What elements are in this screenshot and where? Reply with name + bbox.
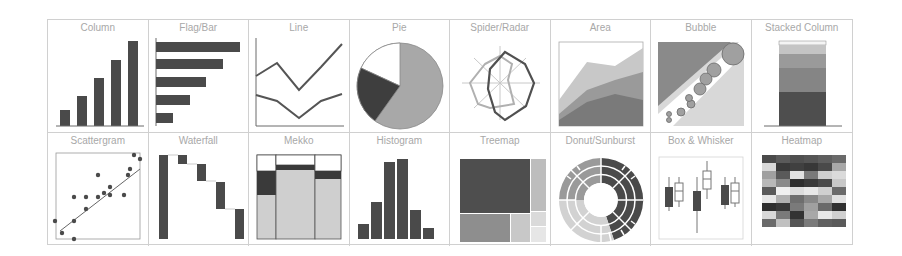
sunburst-chart-icon: [551, 147, 651, 243]
tile-box-whisker[interactable]: Box & Whisker: [651, 133, 752, 246]
tile-scattergram[interactable]: Scattergram: [48, 133, 149, 246]
tile-donut-sunburst[interactable]: Donut/Sunburst: [551, 133, 652, 246]
tile-stacked-column[interactable]: Stacked Column: [752, 20, 853, 133]
line-chart-icon: [249, 34, 349, 130]
tile-label: Line: [249, 22, 349, 34]
tile-mekko[interactable]: Mekko: [249, 133, 350, 246]
tile-bubble[interactable]: Bubble: [651, 20, 752, 133]
waterfall-chart-icon: [149, 147, 249, 243]
bar-chart-icon: [149, 34, 249, 130]
area-chart-icon: [551, 34, 651, 130]
tile-label: Histogram: [350, 135, 450, 147]
tile-label: Bubble: [651, 22, 751, 34]
column-chart-icon: [48, 34, 148, 130]
radar-chart-icon: [450, 34, 550, 130]
tile-area[interactable]: Area: [551, 20, 652, 133]
pie-chart-icon: [350, 34, 450, 130]
tile-label: Pie: [350, 22, 450, 34]
bubble-chart-icon: [651, 34, 751, 130]
scatter-chart-icon: [48, 147, 148, 243]
chart-type-gallery: Column Flag/Bar Line: [47, 19, 853, 245]
tile-label: Waterfall: [149, 135, 249, 147]
histogram-icon: [350, 147, 450, 243]
tile-histogram[interactable]: Histogram: [350, 133, 451, 246]
tile-label: Heatmap: [752, 135, 853, 147]
tile-waterfall[interactable]: Waterfall: [149, 133, 250, 246]
box-whisker-icon: [651, 147, 751, 243]
tile-flag-bar[interactable]: Flag/Bar: [149, 20, 250, 133]
tile-label: Column: [48, 22, 148, 34]
tile-label: Area: [551, 22, 651, 34]
tile-label: Scattergram: [48, 135, 148, 147]
tile-label: Flag/Bar: [149, 22, 249, 34]
heatmap-icon: [752, 147, 852, 243]
tile-label: Treemap: [450, 135, 550, 147]
tile-spider-radar[interactable]: Spider/Radar: [450, 20, 551, 133]
tile-label: Spider/Radar: [450, 22, 550, 34]
mekko-chart-icon: [249, 147, 349, 243]
tile-column[interactable]: Column: [48, 20, 149, 133]
tile-label: Mekko: [249, 135, 349, 147]
treemap-icon: [450, 147, 550, 243]
tile-treemap[interactable]: Treemap: [450, 133, 551, 246]
tile-pie[interactable]: Pie: [350, 20, 451, 133]
tile-line[interactable]: Line: [249, 20, 350, 133]
tile-label: Box & Whisker: [651, 135, 751, 147]
tile-heatmap[interactable]: Heatmap: [752, 133, 853, 246]
tile-label: Stacked Column: [752, 22, 853, 34]
stacked-column-icon: [752, 34, 852, 130]
tile-label: Donut/Sunburst: [551, 135, 651, 147]
